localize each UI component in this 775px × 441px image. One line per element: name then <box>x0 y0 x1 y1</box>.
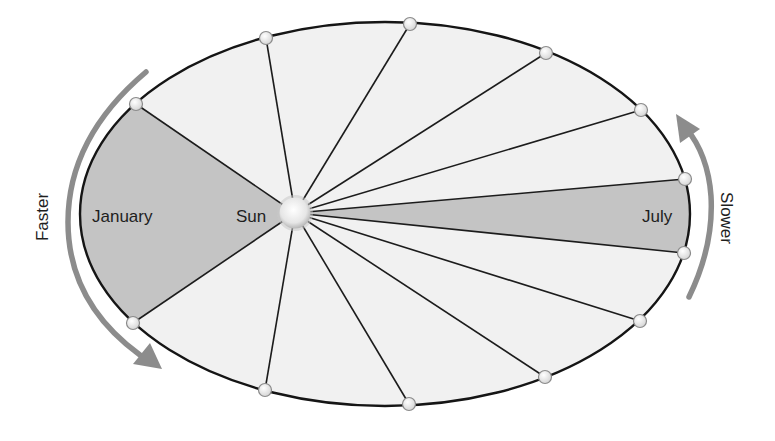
planet-position-marker-icon <box>679 173 692 186</box>
orbit-svg: January Sun July Faster Slower <box>0 0 775 441</box>
planet-position-marker-icon <box>539 371 552 384</box>
planet-position-marker-icon <box>260 32 273 45</box>
planet-position-marker-icon <box>403 398 416 411</box>
slower-label: Slower <box>717 192 736 244</box>
kepler-orbit-diagram: January Sun July Faster Slower <box>0 0 775 441</box>
planet-position-marker-icon <box>634 315 647 328</box>
planet-position-marker-icon <box>130 98 143 111</box>
sun-disc <box>280 198 311 229</box>
planet-position-marker-icon <box>540 47 553 60</box>
planet-position-marker-icon <box>678 247 691 260</box>
january-label: January <box>92 207 153 226</box>
planet-position-marker-icon <box>259 384 272 397</box>
july-label: July <box>642 207 673 226</box>
planet-position-marker-icon <box>635 104 648 117</box>
faster-label: Faster <box>33 193 52 242</box>
planet-position-marker-icon <box>404 18 417 31</box>
planet-position-marker-icon <box>127 317 140 330</box>
sun-label: Sun <box>236 207 266 226</box>
